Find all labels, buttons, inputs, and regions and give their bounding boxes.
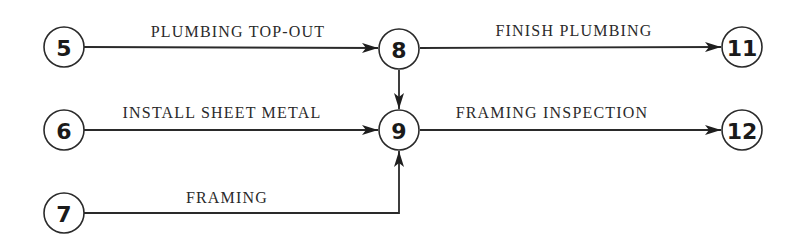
- node-label: 8: [391, 38, 406, 63]
- node-9: 9: [379, 110, 419, 150]
- node-label: 6: [56, 119, 71, 144]
- node-7: 7: [44, 193, 84, 233]
- arrow-5-to-8: [84, 47, 378, 48]
- node-8: 8: [379, 29, 419, 69]
- edge-7-9: FRAMING: [84, 151, 399, 213]
- network-diagram: PLUMBING TOP-OUT FINISH PLUMBING INSTALL…: [0, 0, 804, 247]
- edge-label-finish-plumbing: FINISH PLUMBING: [495, 22, 652, 39]
- edge-label-plumbing-top-out: PLUMBING TOP-OUT: [151, 23, 326, 40]
- edge-label-install-sheet-metal: INSTALL SHEET METAL: [123, 104, 322, 121]
- node-12: 12: [722, 110, 762, 150]
- node-label: 12: [727, 119, 758, 144]
- node-11: 11: [722, 27, 762, 67]
- node-label: 7: [56, 202, 71, 227]
- edge-5-8: PLUMBING TOP-OUT: [84, 23, 378, 48]
- node-label: 9: [391, 119, 406, 144]
- edge-9-12: FRAMING INSPECTION: [420, 104, 721, 130]
- node-6: 6: [44, 110, 84, 150]
- edge-label-framing-inspection: FRAMING INSPECTION: [456, 104, 649, 121]
- node-label: 5: [56, 36, 71, 61]
- edge-6-9: INSTALL SHEET METAL: [84, 104, 378, 130]
- arrow-8-to-11: [420, 47, 721, 48]
- edge-8-11: FINISH PLUMBING: [420, 22, 721, 48]
- edge-label-framing: FRAMING: [186, 189, 268, 206]
- node-label: 11: [727, 36, 758, 61]
- node-5: 5: [44, 27, 84, 67]
